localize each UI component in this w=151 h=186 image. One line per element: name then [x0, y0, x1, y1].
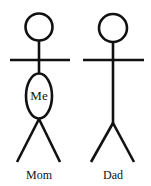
mom-left-leg: [17, 119, 39, 162]
mom-head: [26, 14, 53, 41]
dad-head: [99, 14, 127, 42]
belly-text: Me: [14, 88, 64, 104]
dad-right-leg: [113, 123, 134, 162]
dad-label: Dad: [88, 168, 138, 183]
mom-right-leg: [39, 119, 60, 162]
dad-left-leg: [91, 123, 113, 162]
mom-label: Mom: [14, 168, 64, 183]
dad-figure: [83, 14, 144, 162]
